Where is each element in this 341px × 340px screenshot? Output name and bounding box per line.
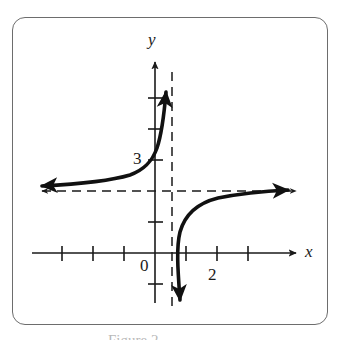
origin-label: 0 xyxy=(140,257,149,274)
graph-canvas xyxy=(0,0,341,340)
y-axis-label: y xyxy=(148,31,156,48)
figure-root: y x 3 0 2 Figure 2 xyxy=(0,0,341,340)
y-intercept-label: 3 xyxy=(133,150,142,167)
x-tick-label-two: 2 xyxy=(208,266,217,283)
curve-right-branch xyxy=(178,190,288,300)
y-axis xyxy=(148,62,163,303)
x-axis-label: x xyxy=(305,243,313,260)
curve-left-branch xyxy=(42,92,166,186)
x-axis xyxy=(32,246,296,261)
figure-caption-remnant: Figure 2 xyxy=(108,332,238,340)
